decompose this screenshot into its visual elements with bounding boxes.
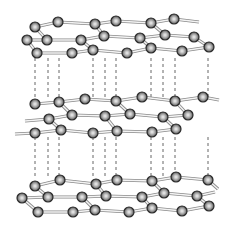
carbon-atom: [88, 45, 98, 55]
carbon-atom: [54, 97, 64, 107]
carbon-atom: [137, 92, 147, 102]
carbon-atom: [122, 48, 132, 58]
carbon-atom: [147, 203, 157, 213]
carbon-atom: [44, 114, 54, 124]
carbon-atom: [112, 126, 122, 136]
carbon-atom: [30, 99, 40, 109]
carbon-atom: [111, 16, 121, 26]
bottom-layer: [17, 172, 218, 217]
carbon-atom: [125, 109, 135, 119]
carbon-atom: [101, 191, 111, 201]
carbon-atom: [203, 175, 213, 185]
middle-layer: [15, 92, 219, 138]
top-layer: [22, 14, 214, 58]
carbon-atom: [204, 201, 214, 211]
carbon-atom: [88, 128, 98, 138]
carbon-atom: [159, 188, 169, 198]
graphite-structure-diagram: [0, 0, 235, 229]
carbon-atom: [146, 18, 156, 28]
carbon-atom: [80, 94, 90, 104]
carbon-atom: [198, 92, 208, 102]
carbon-atom: [30, 22, 40, 32]
carbon-atom: [67, 48, 77, 58]
carbon-atom: [30, 128, 40, 138]
carbon-atom: [67, 110, 77, 120]
carbon-atom: [189, 32, 199, 42]
carbon-atom: [30, 181, 40, 191]
carbon-atom: [76, 35, 86, 45]
carbon-atom: [171, 172, 181, 182]
carbon-atom: [32, 48, 42, 58]
carbon-atom: [158, 112, 168, 122]
carbon-atom: [56, 125, 66, 135]
carbon-atom: [177, 206, 187, 216]
carbon-atom: [100, 111, 110, 121]
carbon-atom: [169, 14, 179, 24]
carbon-atom: [112, 175, 122, 185]
carbon-atom: [124, 207, 134, 217]
carbon-atom: [43, 192, 53, 202]
carbon-atom: [204, 42, 214, 52]
carbon-atom: [146, 43, 156, 53]
carbon-atom: [147, 127, 157, 137]
carbon-atom: [160, 30, 170, 40]
carbon-atom: [135, 33, 145, 43]
carbon-atom: [171, 124, 181, 134]
carbon-atom: [91, 179, 101, 189]
carbon-atom: [183, 110, 193, 120]
carbon-atom: [192, 191, 202, 201]
carbon-atom: [22, 35, 32, 45]
carbon-atom: [68, 207, 78, 217]
carbon-atom: [33, 207, 43, 217]
carbon-atom: [53, 17, 63, 27]
carbon-atom: [55, 175, 65, 185]
carbon-atom: [17, 193, 27, 203]
carbon-atom: [77, 192, 87, 202]
carbon-atom: [111, 96, 121, 106]
carbon-atom: [90, 19, 100, 29]
carbon-atom: [137, 192, 147, 202]
carbon-atom: [99, 31, 109, 41]
carbon-atom: [42, 35, 52, 45]
carbon-layers: [15, 14, 219, 217]
carbon-atom: [90, 205, 100, 215]
carbon-atom: [147, 176, 157, 186]
carbon-atom: [177, 46, 187, 56]
carbon-atom: [170, 96, 180, 106]
